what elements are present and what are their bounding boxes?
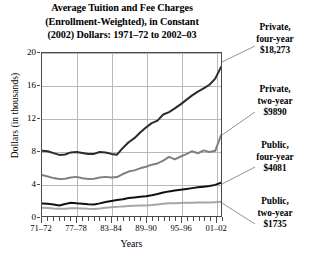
annotation-public-two-year-value: $1735: [232, 219, 318, 231]
x-tick-mark: [164, 217, 165, 221]
series-line-private-four-year: [42, 67, 221, 155]
annotation-private-two-year-line1: Private,: [232, 84, 318, 96]
x-tick-mark: [187, 217, 188, 221]
x-tick-mark: [53, 217, 54, 221]
x-tick-mark: [123, 217, 124, 221]
annotation-public-four-year-line2: four-year: [232, 152, 318, 164]
x-tick-mark: [175, 217, 176, 221]
x-tick-mark: [70, 217, 71, 221]
annotation-private-four-year-line1: Private,: [232, 22, 318, 34]
series-lines: [42, 53, 221, 216]
y-tick-mark: [37, 217, 40, 218]
plot-area: [41, 52, 222, 217]
chart-title-line-3: (2002) Dollars: 1971–72 to 2002–03: [16, 28, 228, 42]
x-tick-mark: [169, 217, 170, 221]
x-tick-mark: [117, 217, 118, 221]
annotation-private-two-year-line2: two-year: [232, 96, 318, 108]
x-tick-mark: [134, 217, 135, 221]
y-tick-mark: [37, 52, 40, 53]
annotation-public-four-year: Public, four-year $4081: [232, 140, 318, 175]
x-tick-mark: [199, 217, 200, 221]
x-tick-mark: [82, 217, 83, 221]
x-tick-mark: [64, 217, 65, 221]
x-tick-mark: [94, 217, 95, 221]
y-tick-label: 0: [12, 213, 36, 222]
x-tick-mark: [88, 217, 89, 221]
x-axis-label: Years: [41, 238, 222, 249]
chart-title-line-2: (Enrollment-Weighted), in Constant: [16, 15, 228, 29]
annotation-public-two-year-line2: two-year: [232, 208, 318, 220]
y-tick-mark: [37, 85, 40, 86]
x-tick-mark: [140, 217, 141, 221]
x-tick-mark: [47, 217, 48, 221]
x-tick-mark: [193, 217, 194, 221]
x-tick-mark: [158, 217, 159, 221]
annotation-public-four-year-line1: Public,: [232, 140, 318, 152]
x-tick-mark: [222, 217, 223, 221]
tuition-chart-figure: Average Tuition and Fee Charges (Enrollm…: [0, 0, 322, 259]
annotation-private-four-year-line2: four-year: [232, 34, 318, 46]
series-line-private-two-year: [42, 135, 221, 179]
x-tick-mark: [204, 217, 205, 221]
annotation-private-two-year: Private, two-year $9890: [232, 84, 318, 119]
annotation-public-two-year: Public, two-year $1735: [232, 196, 318, 231]
x-tick-mark: [99, 217, 100, 221]
x-tick-mark: [129, 217, 130, 221]
annotation-private-four-year-value: $18,273: [232, 45, 318, 57]
y-tick-mark: [37, 184, 40, 185]
x-tick-mark: [105, 217, 106, 221]
y-tick-mark: [37, 118, 40, 119]
chart-title-line-1: Average Tuition and Fee Charges: [16, 1, 228, 15]
chart-title: Average Tuition and Fee Charges (Enrollm…: [16, 1, 228, 42]
y-tick-mark: [37, 151, 40, 152]
y-tick-label: 4: [12, 180, 36, 189]
annotation-private-four-year: Private, four-year $18,273: [232, 22, 318, 57]
annotation-public-two-year-line1: Public,: [232, 196, 318, 208]
x-tick-mark: [59, 217, 60, 221]
annotation-public-four-year-value: $4081: [232, 163, 318, 175]
annotation-private-two-year-value: $9890: [232, 107, 318, 119]
x-tick-mark: [210, 217, 211, 221]
y-axis-label: Dollars (in thousands): [9, 56, 20, 176]
x-tick-mark: [152, 217, 153, 221]
